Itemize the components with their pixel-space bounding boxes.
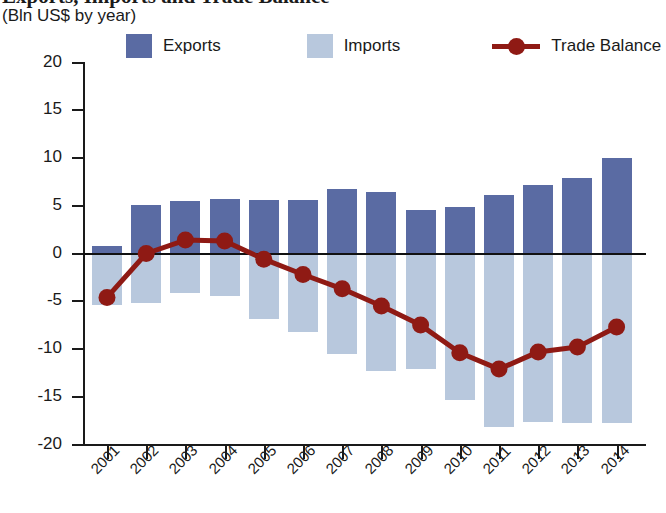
y-axis-tick-mark [72,157,83,159]
chart-plot-area: 20151050-5-10-15-20200120022003200420052… [0,0,666,513]
bar-exports [210,199,240,253]
x-axis-tick-label: 2004 [205,441,241,477]
x-axis-tick-label: 2005 [244,441,280,477]
bar-imports [327,254,357,354]
bar-imports [249,254,279,320]
x-axis-tick-label: 2003 [165,441,201,477]
y-axis-tick-mark [72,444,83,446]
y-axis-tick-label: -10 [16,338,62,358]
x-axis-tick-label: 2014 [597,441,633,477]
x-axis-tick-label: 2008 [361,441,397,477]
bar-imports [170,254,200,293]
x-axis-tick-label: 2006 [283,441,319,477]
y-axis-tick-mark [72,109,83,111]
bar-imports [92,254,122,306]
bar-exports [288,200,318,253]
y-axis-tick-label: 5 [16,195,62,215]
x-axis-tick-label: 2009 [401,441,437,477]
x-axis-tick-label: 2001 [87,441,123,477]
bar-exports [484,195,514,253]
y-axis-tick-label: 0 [16,243,62,263]
bar-imports [288,254,318,332]
bar-imports [210,254,240,296]
y-axis-tick-label: -5 [16,290,62,310]
y-axis-tick-mark [72,348,83,350]
y-axis-tick-label: -15 [16,386,62,406]
chart-root: Exports, Imports and Trade Balance (Bln … [0,0,666,513]
bar-imports [366,254,396,371]
x-axis-tick-label: 2011 [479,442,514,477]
bar-exports [366,192,396,253]
y-axis-tick-mark [72,253,83,255]
y-axis-tick-mark [72,300,83,302]
y-axis-tick-mark [72,396,83,398]
y-axis-tick-mark [72,62,83,64]
bar-exports [562,178,592,253]
x-axis-tick-label: 2012 [518,441,554,477]
bar-exports [445,207,475,254]
x-axis-tick-label: 2002 [126,441,162,477]
x-axis-tick-label: 2007 [322,441,358,477]
x-axis-tick-label: 2010 [440,441,476,477]
bar-exports [327,189,357,254]
y-axis-tick-label: 20 [16,52,62,72]
bar-exports [406,210,436,254]
bar-imports [484,254,514,428]
y-axis-tick-label: 10 [16,147,62,167]
y-axis-tick-label: 15 [16,99,62,119]
x-axis-line [83,444,646,446]
y-axis-tick-mark [72,205,83,207]
zero-baseline [83,253,646,255]
bar-exports [602,158,632,254]
bar-imports [406,254,436,370]
bar-imports [131,254,161,304]
bar-imports [445,254,475,400]
bar-exports [249,200,279,253]
bar-exports [131,205,161,254]
x-axis-tick-label: 2013 [557,441,593,477]
bar-exports [523,185,553,254]
bar-imports [562,254,592,423]
bar-exports [170,201,200,254]
bar-imports [602,254,632,423]
y-axis-tick-label: -20 [16,434,62,454]
bar-imports [523,254,553,422]
